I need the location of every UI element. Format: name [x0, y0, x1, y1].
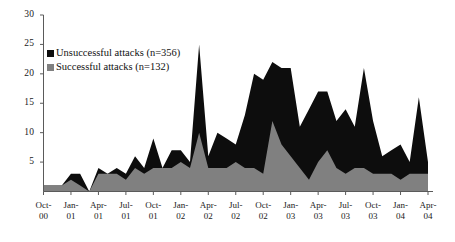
y-tick-label: 25	[8, 38, 34, 48]
x-tick-label: Jul-01	[111, 200, 141, 221]
y-axis-ticks	[40, 15, 44, 162]
x-tick-label: Apr-01	[83, 200, 113, 221]
x-axis-ticks	[44, 192, 429, 196]
x-tick-label: Oct-00	[29, 200, 59, 221]
attacks-over-time-chart: 51015202530 Oct-00Jan-01Apr-01Jul-01Oct-…	[0, 0, 455, 242]
x-tick-label: Jan-03	[276, 200, 306, 221]
x-tick-label: Apr-03	[303, 200, 333, 221]
x-tick-label: Jul-02	[221, 200, 251, 221]
x-tick-label: Oct-02	[248, 200, 278, 221]
x-tick-label: Jul-03	[331, 200, 361, 221]
y-tick-label: 30	[8, 9, 34, 19]
x-tick-label: Oct-01	[138, 200, 168, 221]
x-tick-label: Apr-02	[193, 200, 223, 221]
legend-swatch-unsuccessful	[47, 50, 54, 57]
chart-legend: Unsuccessful attacks (n=356) Successful …	[47, 46, 180, 74]
y-tick-label: 5	[8, 156, 34, 166]
x-tick-label: Jan-01	[56, 200, 86, 221]
legend-label-successful: Successful attacks (n=132)	[56, 61, 169, 73]
y-tick-label: 15	[8, 97, 34, 107]
x-tick-label: Apr-04	[413, 200, 443, 221]
legend-item-unsuccessful: Unsuccessful attacks (n=356)	[47, 46, 180, 60]
legend-item-successful: Successful attacks (n=132)	[47, 60, 180, 74]
x-tick-label: Jan-02	[166, 200, 196, 221]
y-tick-label: 20	[8, 68, 34, 78]
legend-label-unsuccessful: Unsuccessful attacks (n=356)	[56, 47, 180, 59]
y-tick-label: 10	[8, 127, 34, 137]
x-tick-label: Oct-03	[358, 200, 388, 221]
x-tick-label: Jan-04	[386, 200, 416, 221]
legend-swatch-successful	[47, 64, 54, 71]
